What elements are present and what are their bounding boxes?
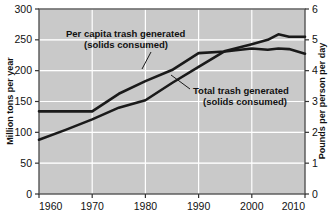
y-axis-right-title: Pounds per person per day [317,43,327,160]
tick-label-y-right: 0 [312,188,318,200]
tick-label-x: 1980 [134,200,158,212]
y-axis-left-ticks: 050100150200250300 [14,3,39,200]
tick-label-x: 2010 [282,200,306,212]
tick-label-x: 1970 [81,200,105,212]
tick-label-x: 1990 [187,200,211,212]
tick-label-x: 2000 [240,200,264,212]
tick-label-y-left: 50 [20,157,32,169]
tick-label-y-left: 200 [14,64,32,76]
tick-label-y-left: 250 [14,33,32,45]
tick-label-x: 1960 [39,200,63,212]
annotation-total-line2: (solids consumed) [203,96,287,107]
tick-label-y-left: 100 [14,126,32,138]
x-axis-ticks: 196019701980199020002010 [39,194,305,212]
chart-container: 050100150200250300 0123456 1960197019801… [0,0,333,218]
annotation-per-capita-line1: Per capita trash generated [66,28,186,39]
tick-label-y-left: 300 [14,3,32,15]
tick-label-y-left: 150 [14,95,32,107]
tick-label-y-right: 6 [312,3,318,15]
annotation-per-capita-line2: (solids consumed) [84,39,168,50]
tick-label-y-left: 0 [26,188,32,200]
annotation-total-line1: Total trash generated [193,85,289,96]
trash-generation-line-chart: 050100150200250300 0123456 1960197019801… [0,0,333,218]
y-axis-left-title: Million tons per year [5,57,15,145]
